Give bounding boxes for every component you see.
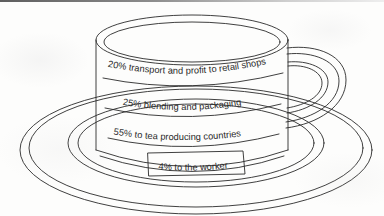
band-label-producing: 55% to tea producing countries (113, 127, 242, 142)
line-drawing-canvas: 20% transport and profit to retail shops… (0, 0, 384, 216)
tea-cup-infographic: 20% transport and profit to retail shops… (0, 0, 384, 216)
band-label-worker: 4% to the worker (158, 160, 228, 172)
